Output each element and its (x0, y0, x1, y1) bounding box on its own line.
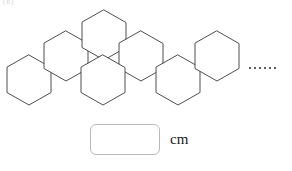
hexagon-chain-svg (0, 0, 246, 118)
question-figure-panel: (b) cm (0, 0, 292, 171)
ellipsis-dot (264, 67, 266, 69)
hexagon-chain-figure (0, 0, 246, 118)
ellipsis-dot (269, 67, 271, 69)
ellipsis-dot (249, 67, 251, 69)
ellipsis-dot (254, 67, 256, 69)
hexagon-6 (195, 31, 239, 81)
answer-input[interactable] (90, 124, 160, 155)
continuation-ellipsis (249, 60, 289, 76)
unit-label: cm (170, 132, 188, 147)
ellipsis-dot (259, 67, 261, 69)
ellipsis-dot (274, 67, 276, 69)
answer-row: cm (90, 124, 188, 155)
